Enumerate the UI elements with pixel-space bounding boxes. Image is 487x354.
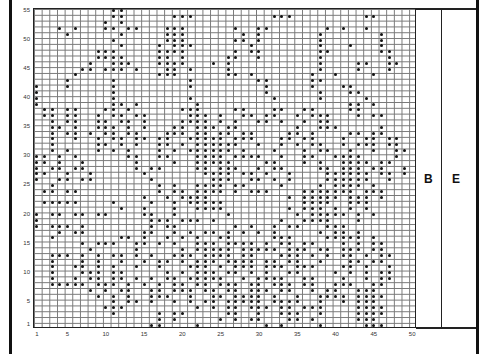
stitch-dot	[66, 225, 69, 228]
stitch-dot	[250, 225, 253, 228]
stitch-dot	[204, 114, 207, 117]
stitch-dot	[357, 103, 360, 106]
column-number-label: 5	[60, 331, 74, 337]
stitch-dot	[357, 248, 360, 251]
stitch-dot	[120, 62, 123, 65]
stitch-dot	[158, 312, 161, 315]
column-number-label: 1	[30, 331, 44, 337]
stitch-dot	[212, 289, 215, 292]
stitch-dot	[242, 231, 245, 234]
stitch-dot	[265, 91, 268, 94]
stitch-dot	[319, 62, 322, 65]
stitch-dot	[334, 190, 337, 193]
stitch-dot	[196, 103, 199, 106]
stitch-dot	[143, 207, 146, 210]
stitch-dot	[319, 306, 322, 309]
stitch-dot	[112, 283, 115, 286]
stitch-dot	[89, 248, 92, 251]
stitch-dot	[365, 207, 368, 210]
stitch-dot	[212, 184, 215, 187]
stitch-dot	[74, 114, 77, 117]
stitch-dot	[204, 277, 207, 280]
stitch-dot	[66, 283, 69, 286]
stitch-dot	[204, 161, 207, 164]
stitch-dot	[227, 231, 230, 234]
stitch-dot	[74, 190, 77, 193]
stitch-dot	[89, 62, 92, 65]
stitch-dot	[97, 114, 100, 117]
stitch-dot	[189, 44, 192, 47]
stitch-dot	[342, 295, 345, 298]
stitch-dot	[227, 306, 230, 309]
stitch-dot	[311, 219, 314, 222]
stitch-dot	[58, 231, 61, 234]
row-number-label: 55	[16, 7, 30, 13]
stitch-dot	[357, 132, 360, 135]
stitch-dot	[388, 68, 391, 71]
stitch-dot	[143, 242, 146, 245]
stitch-dot	[51, 213, 54, 216]
stitch-dot	[166, 27, 169, 30]
stitch-dot	[311, 155, 314, 158]
stitch-dot	[66, 149, 69, 152]
stitch-dot	[365, 312, 368, 315]
stitch-dot	[250, 306, 253, 309]
stitch-dot	[158, 289, 161, 292]
stitch-dot	[219, 161, 222, 164]
stitch-dot	[189, 15, 192, 18]
row-number-label: 40	[16, 94, 30, 100]
stitch-dot	[380, 295, 383, 298]
stitch-dot	[173, 289, 176, 292]
stitch-dot	[135, 277, 138, 280]
stitch-dot	[311, 254, 314, 257]
stitch-dot	[189, 231, 192, 234]
stitch-dot	[273, 283, 276, 286]
stitch-dot	[342, 283, 345, 286]
stitch-dot	[288, 196, 291, 199]
row-number-label: 5	[16, 298, 30, 304]
stitch-dot	[51, 114, 54, 117]
stitch-dot	[319, 149, 322, 152]
stitch-dot	[158, 295, 161, 298]
stitch-dot	[204, 149, 207, 152]
stitch-dot	[97, 271, 100, 274]
stitch-dot	[181, 39, 184, 42]
stitch-dot	[357, 184, 360, 187]
stitch-dot	[319, 120, 322, 123]
stitch-dot	[135, 254, 138, 257]
stitch-dot	[319, 56, 322, 59]
stitch-dot	[273, 248, 276, 251]
stitch-dot	[319, 143, 322, 146]
column-number-label: 40	[329, 331, 343, 337]
stitch-dot	[288, 260, 291, 263]
stitch-dot	[181, 283, 184, 286]
stitch-dot	[365, 62, 368, 65]
stitch-dot	[143, 196, 146, 199]
stitch-dot	[342, 27, 345, 30]
stitch-dot	[204, 254, 207, 257]
stitch-dot	[51, 184, 54, 187]
stitch-dot	[273, 277, 276, 280]
stitch-dot	[158, 56, 161, 59]
stitch-dot	[189, 295, 192, 298]
stitch-dot	[112, 103, 115, 106]
stitch-dot	[334, 126, 337, 129]
stitch-dot	[166, 271, 169, 274]
stitch-dot	[51, 143, 54, 146]
stitch-dot	[189, 219, 192, 222]
stitch-dot	[212, 190, 215, 193]
stitch-dot	[150, 289, 153, 292]
stitch-dot	[227, 283, 230, 286]
stitch-dot	[173, 231, 176, 234]
stitch-dot	[127, 132, 130, 135]
stitch-dot	[74, 277, 77, 280]
stitch-dot	[227, 254, 230, 257]
stitch-dot	[74, 132, 77, 135]
stitch-dot	[189, 277, 192, 280]
stitch-dot	[204, 184, 207, 187]
stitch-dot	[173, 318, 176, 321]
stitch-dot	[212, 62, 215, 65]
stitch-dot	[319, 295, 322, 298]
stitch-dot	[51, 283, 54, 286]
stitch-dot	[112, 312, 115, 315]
